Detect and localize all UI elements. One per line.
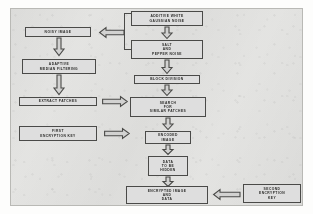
node-encrypted-image-and-data: ENCRYPTED IMAGE AND DATA [126, 186, 208, 204]
node-label: ENCRYPTED IMAGE AND DATA [128, 189, 206, 201]
node-additive-white-gaussian-noise: ADDITIVE WHITE GAUSSIAN NOISE [131, 11, 203, 26]
node-label: ENCODED IMAGE [147, 133, 189, 141]
noise-bracket-top-stub [124, 13, 131, 14]
arrow-extract-patches-to-search [102, 96, 128, 107]
arrow-adaptive-median-to-extract-patches [53, 75, 65, 95]
node-second-encryption-key: SECOND ENCRYPTION KEY [243, 184, 301, 203]
arrow-noisy-image-to-adaptive-median [53, 38, 65, 56]
arrow-awgn-to-salt-pepper [161, 27, 173, 39]
node-label: ADAPTIVE MEDIAN FILTERING [24, 62, 94, 70]
node-adaptive-median-filtering: ADAPTIVE MEDIAN FILTERING [22, 59, 96, 74]
node-label: FIRST ENCRYPTION KEY [21, 129, 95, 137]
arrow-salt-pepper-to-block-division [161, 60, 173, 74]
node-extract-patches: EXTRACT PATCHES [19, 97, 97, 106]
node-noisy-image: NOISY IMAGE [25, 27, 91, 37]
noise-bracket-bottom-stub [124, 49, 131, 50]
arrow-second-key-to-encrypted-output [213, 189, 241, 200]
node-block-division: BLOCK DIVISION [134, 75, 200, 84]
node-label: SALT AND PEPPER NOISE [133, 43, 201, 55]
node-data-to-be-hidden: DATA TO BE HIDDEN [148, 156, 188, 176]
node-label: SECOND ENCRYPTION KEY [245, 187, 299, 199]
node-label: BLOCK DIVISION [136, 77, 198, 81]
node-encoded-image: ENCODED IMAGE [145, 131, 191, 144]
node-salt-and-pepper-noise: SALT AND PEPPER NOISE [131, 40, 203, 59]
arrow-noise-to-noisy-image [99, 27, 125, 38]
node-label: ADDITIVE WHITE GAUSSIAN NOISE [133, 14, 201, 22]
node-label: EXTRACT PATCHES [21, 99, 95, 103]
arrow-first-key-to-encoded-image [104, 128, 130, 139]
node-label: DATA TO BE HIDDEN [150, 160, 186, 172]
arrow-search-to-encoded-image [162, 118, 174, 130]
flowchart-screenshot: ADDITIVE WHITE GAUSSIAN NOISE SALT AND P… [0, 0, 313, 214]
node-label: NOISY IMAGE [27, 30, 89, 34]
node-first-encryption-key: FIRST ENCRYPTION KEY [19, 126, 97, 141]
arrow-encoded-image-to-data-hidden [162, 145, 174, 155]
node-search-for-similar-patches: SEARCH FOR SIMILAR PATCHES [130, 97, 206, 117]
arrow-block-division-to-search [161, 85, 173, 96]
node-label: SEARCH FOR SIMILAR PATCHES [132, 101, 204, 113]
